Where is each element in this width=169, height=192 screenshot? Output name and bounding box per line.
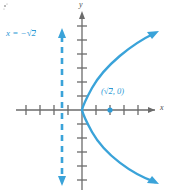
directrix-arrow-down-icon [58, 176, 66, 186]
directrix-label-prefix: x = − [6, 28, 27, 38]
parabola-curve [82, 33, 155, 182]
scan-artifact-icon [4, 4, 8, 10]
focus-point-label: (√2, 0) [101, 87, 124, 96]
directrix-arrow-up-icon [58, 28, 66, 38]
focus-label-close: , 0) [113, 86, 124, 96]
directrix-line [58, 28, 66, 186]
focus-point-dot [107, 107, 112, 112]
y-axis-arrow-icon [79, 11, 85, 19]
x-axis-label: x [160, 104, 164, 112]
radical-sqrt2-point: √2 [104, 87, 113, 96]
directrix-label: x = −√2 [6, 29, 36, 38]
radical-sqrt2-directrix: √2 [27, 29, 36, 38]
parabola-figure: x = −√2 (√2, 0) x y [0, 0, 169, 192]
y-axis-label: y [79, 1, 83, 9]
x-axis [16, 105, 155, 115]
x-axis-arrow-icon [148, 107, 155, 113]
